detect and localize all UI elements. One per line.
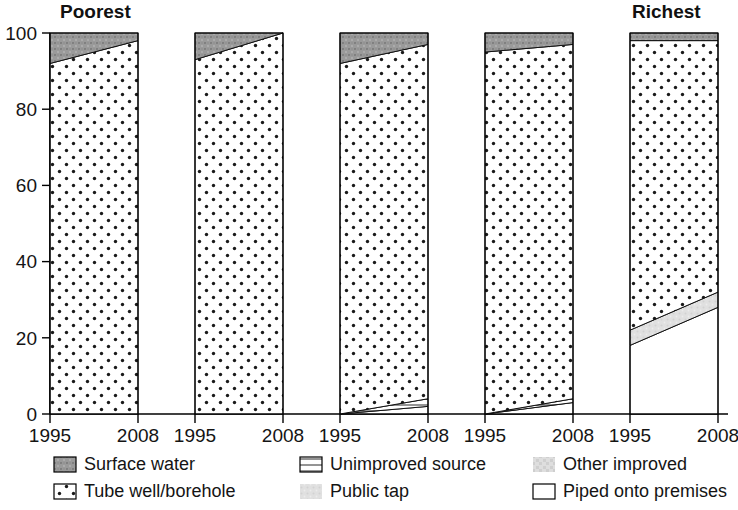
legend-swatch-unimproved-source (300, 457, 322, 472)
area-tube-well-borehole (50, 41, 138, 414)
panel-5 (630, 33, 718, 414)
legend: Surface water Unimproved source Other im… (54, 454, 727, 501)
y-tick-60: 60 (16, 175, 37, 196)
area-tube-well-borehole (340, 44, 428, 414)
stacked-area-chart: Poorest Richest 100 80 60 40 20 0 (0, 0, 738, 510)
legend-label-other-improved: Other improved (563, 454, 687, 474)
panel-title-poorest: Poorest (60, 1, 131, 22)
x-tick-p2-1995: 1995 (174, 425, 216, 446)
chart-container: Poorest Richest 100 80 60 40 20 0 (0, 0, 738, 510)
x-tick-p5-2008: 2008 (697, 425, 738, 446)
area-tube-well-borehole (195, 33, 283, 414)
plot-areas (50, 33, 718, 414)
area-surface-water (630, 33, 718, 41)
panel-4 (485, 33, 573, 414)
x-tick-p5-1995: 1995 (609, 425, 651, 446)
legend-swatch-other-improved (533, 457, 555, 472)
legend-label-piped-onto-premises: Piped onto premises (563, 481, 727, 501)
legend-label-unimproved-source: Unimproved source (330, 454, 486, 474)
y-tick-20: 20 (16, 328, 37, 349)
area-tube-well-borehole (630, 41, 718, 331)
panel-title-richest: Richest (632, 1, 701, 22)
panel-2 (195, 33, 283, 414)
x-tick-p4-2008: 2008 (552, 425, 594, 446)
x-tick-p3-2008: 2008 (407, 425, 449, 446)
x-tick-p4-1995: 1995 (464, 425, 506, 446)
x-axis: 1995 2008 1995 2008 1995 2008 1995 2008 … (29, 414, 738, 446)
legend-label-tube-well: Tube well/borehole (84, 481, 235, 501)
y-axis: 100 80 60 40 20 0 (5, 23, 50, 425)
legend-label-surface-water: Surface water (84, 454, 195, 474)
x-tick-p1-1995: 1995 (29, 425, 71, 446)
x-tick-p2-2008: 2008 (262, 425, 304, 446)
legend-swatch-surface-water (54, 457, 76, 472)
y-tick-80: 80 (16, 99, 37, 120)
area-tube-well-borehole (485, 44, 573, 414)
panel-1 (50, 33, 138, 414)
legend-swatch-tube-well (54, 484, 76, 499)
y-tick-0: 0 (26, 404, 37, 425)
legend-label-public-tap: Public tap (330, 481, 409, 501)
y-tick-100: 100 (5, 23, 37, 44)
y-tick-40: 40 (16, 251, 37, 272)
panel-3 (340, 33, 428, 414)
legend-swatch-public-tap (300, 484, 322, 499)
x-tick-p1-2008: 2008 (117, 425, 159, 446)
legend-swatch-piped-onto-premises (533, 484, 555, 499)
x-tick-p3-1995: 1995 (319, 425, 361, 446)
